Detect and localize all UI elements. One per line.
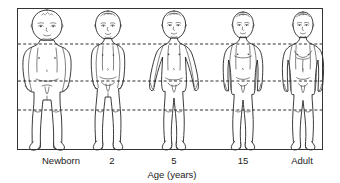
label-newborn: Newborn bbox=[42, 155, 80, 166]
axis-title-age: Age (years) bbox=[147, 169, 196, 180]
figure-newborn bbox=[23, 10, 71, 150]
figure-age-5 bbox=[150, 11, 199, 150]
label-age-2: 2 bbox=[109, 155, 114, 166]
figure-age-2 bbox=[91, 11, 124, 150]
label-adult: Adult bbox=[291, 155, 313, 166]
label-age-15: 15 bbox=[238, 155, 249, 166]
body-proportion-diagram: Newborn 2 5 15 Adult Age (years) bbox=[0, 0, 340, 183]
label-age-5: 5 bbox=[171, 155, 176, 166]
